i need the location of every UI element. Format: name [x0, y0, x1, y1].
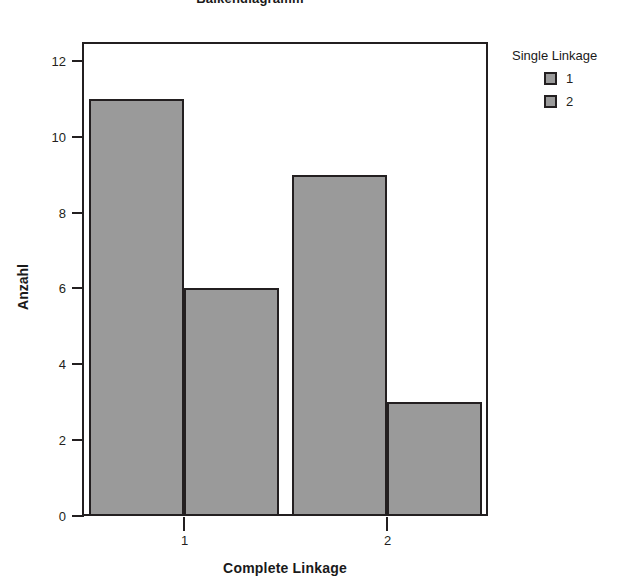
legend-entry: 2: [544, 94, 634, 109]
y-axis-tick: [72, 136, 84, 138]
legend-swatch-icon: [544, 72, 557, 85]
legend-entry-label: 1: [566, 71, 573, 86]
y-axis-tick: [72, 515, 84, 517]
bar: [184, 288, 279, 516]
bars-layer: [82, 42, 488, 516]
legend-title: Single Linkage: [512, 48, 634, 63]
chart-title: Balkendiagramm: [0, 0, 500, 6]
y-axis-tick: [72, 212, 84, 214]
y-axis-title: Anzahl: [15, 242, 31, 332]
chart-screenshot: Balkendiagramm 024681012 Anzahl 12 Compl…: [0, 0, 636, 587]
bar: [387, 402, 482, 516]
x-axis-tick: [183, 517, 185, 531]
legend: Single Linkage 12: [512, 48, 634, 117]
y-axis-tick: [72, 60, 84, 62]
x-axis-title: Complete Linkage: [82, 560, 488, 576]
x-axis-tick-label: 1: [155, 533, 215, 548]
y-axis-tick-label: 12: [16, 53, 66, 68]
legend-entry-label: 2: [566, 94, 573, 109]
y-axis-tick: [72, 439, 84, 441]
x-axis-tick: [386, 517, 388, 531]
x-axis-tick-label: 2: [358, 533, 418, 548]
y-axis-tick-label: 2: [16, 433, 66, 448]
y-axis-tick-label: 4: [16, 357, 66, 372]
y-axis-tick-label: 0: [16, 509, 66, 524]
y-axis-tick: [72, 287, 84, 289]
y-axis-tick-label: 10: [16, 129, 66, 144]
y-axis-tick-label: 8: [16, 205, 66, 220]
legend-swatch-icon: [544, 95, 557, 108]
bar: [89, 99, 184, 516]
y-axis-tick: [72, 363, 84, 365]
legend-entry: 1: [544, 71, 634, 86]
bar: [292, 175, 387, 516]
legend-entries: 12: [512, 71, 634, 109]
